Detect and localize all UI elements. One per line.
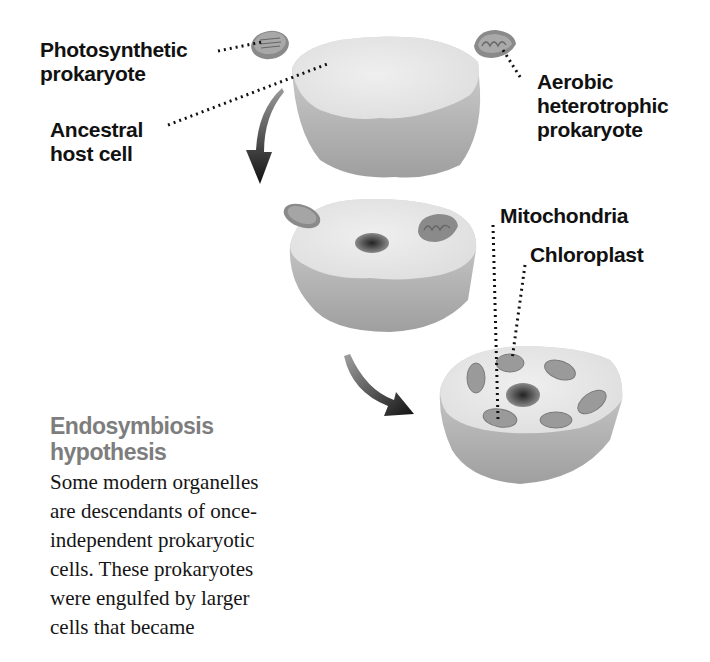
photosynthetic-prokaryote-icon [249, 28, 291, 62]
caption-body: Some modern organelles are descendants o… [50, 468, 370, 642]
arrow-right-icon [344, 354, 414, 416]
chloroplast-icon [496, 354, 524, 372]
label-aerobic-heterotrophic-prokaryote: Aerobic heterotrophic prokaryote [537, 70, 668, 142]
caption-line: Some modern organelles [50, 468, 370, 497]
nucleus-icon [506, 383, 540, 407]
arrow-down-icon [246, 88, 284, 184]
caption-line: were engulfed by larger [50, 584, 370, 613]
caption-line: cells. These prokaryotes [50, 555, 370, 584]
label-mitochondria: Mitochondria [500, 204, 628, 228]
label-line: Ancestral [50, 118, 143, 142]
label-line: prokaryote [40, 62, 187, 86]
label-line: Photosynthetic [40, 38, 187, 62]
modern-eukaryotic-cell [440, 346, 623, 484]
label-line: Aerobic [537, 70, 668, 94]
label-line: host cell [50, 142, 143, 166]
caption-line: are descendants of once- [50, 497, 370, 526]
caption-title-line: hypothesis [50, 439, 213, 465]
aerobic-prokaryote-icon [474, 30, 516, 58]
engulfing-cell [280, 199, 476, 332]
label-line: heterotrophic [537, 94, 668, 118]
caption-line: cells that became [50, 613, 370, 642]
caption-title-line: Endosymbiosis [50, 413, 213, 439]
label-line: prokaryote [537, 118, 668, 142]
caption-title: Endosymbiosis hypothesis [50, 413, 213, 465]
chloroplast-icon [540, 412, 572, 428]
label-ancestral-host-cell: Ancestral host cell [50, 118, 143, 166]
leader-line-chloroplast [512, 265, 525, 360]
ancestral-host-cell [292, 36, 480, 177]
endosymbiosis-diagram: Photosynthetic prokaryote Ancestral host… [0, 0, 710, 662]
caption-line: independent prokaryotic [50, 526, 370, 555]
label-photosynthetic-prokaryote: Photosynthetic prokaryote [40, 38, 187, 86]
nucleus-icon [355, 233, 389, 253]
chloroplast-icon [467, 363, 485, 393]
leader-line-aerobic [503, 50, 522, 80]
label-chloroplast: Chloroplast [530, 243, 643, 267]
